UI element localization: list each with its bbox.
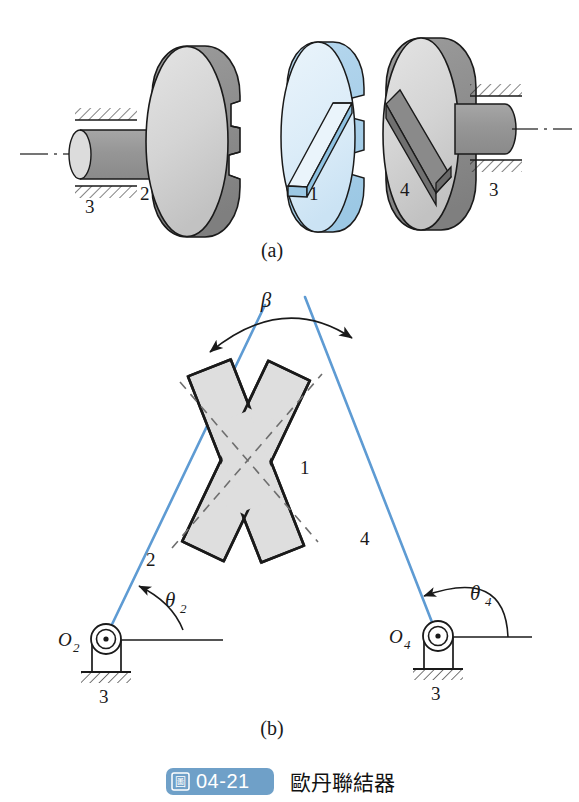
label-left-ground-3: 3 bbox=[85, 196, 95, 217]
label-link-2: 2 bbox=[146, 549, 156, 570]
pivot-left-sub: 2 bbox=[73, 640, 80, 655]
middle-disc-part1 bbox=[281, 42, 364, 232]
label-ground-right-3: 3 bbox=[431, 683, 441, 704]
figure-caption: 圖 04-21 歐丹聯結器 bbox=[166, 768, 395, 795]
label-cross-1: 1 bbox=[300, 457, 310, 478]
theta4-sub: 4 bbox=[485, 594, 492, 609]
caption-title: 歐丹聯結器 bbox=[290, 771, 395, 795]
label-right-ground-3: 3 bbox=[489, 179, 499, 200]
caption-badge-glyph: 圖 bbox=[175, 776, 186, 789]
panel-b-label: (b) bbox=[260, 717, 283, 740]
pivot-right-O4: O 4 3 θ 4 bbox=[389, 581, 532, 704]
left-disc-part2 bbox=[146, 46, 240, 237]
label-right-disc-4: 4 bbox=[400, 179, 410, 200]
theta4-label: θ bbox=[470, 581, 480, 605]
right-shaft bbox=[455, 104, 516, 154]
figure-canvas: 3 2 1 4 3 (a) β bbox=[0, 0, 579, 802]
beta-arc-arrow bbox=[210, 318, 352, 352]
label-ground-left-3: 3 bbox=[99, 686, 109, 707]
beta-label: β bbox=[260, 288, 272, 312]
pivot-right-sub: 4 bbox=[404, 637, 411, 652]
link-4-line bbox=[305, 297, 437, 635]
theta2-arc-arrow bbox=[139, 586, 183, 630]
label-link-4: 4 bbox=[360, 528, 370, 549]
cross-member-part1: 1 bbox=[172, 360, 322, 563]
panel-b-kinematic-diagram: β bbox=[58, 288, 532, 740]
panel-a-assembly: 3 2 1 4 3 (a) bbox=[20, 38, 572, 262]
label-middle-disc-1: 1 bbox=[309, 183, 319, 204]
panel-a-label: (a) bbox=[261, 239, 283, 262]
label-left-disc-2: 2 bbox=[140, 183, 150, 204]
oldham-coupling-figure: 3 2 1 4 3 (a) β bbox=[0, 0, 579, 802]
caption-number: 04-21 bbox=[196, 770, 250, 792]
pivot-left-O2: O 2 3 θ 2 bbox=[58, 586, 223, 707]
pivot-right-label: O bbox=[389, 626, 403, 647]
theta2-sub: 2 bbox=[180, 601, 187, 616]
theta2-label: θ bbox=[165, 588, 175, 612]
pivot-left-label: O bbox=[58, 629, 72, 650]
